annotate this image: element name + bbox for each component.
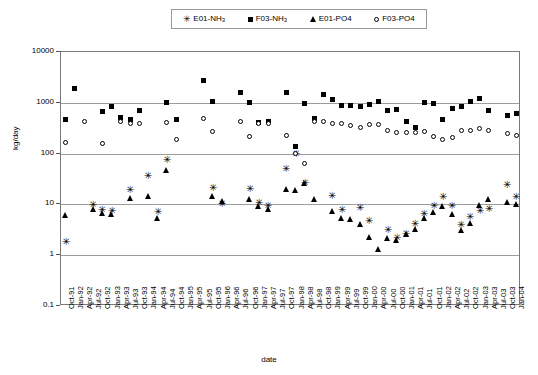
data-point-f03-po4 xyxy=(201,116,206,121)
data-point-e01-po4 xyxy=(154,215,160,221)
x-tick-label: Jul-00 xyxy=(390,289,398,309)
data-point-f03-nh3 xyxy=(367,102,372,107)
data-point-e01-nh3: ✳ xyxy=(163,156,171,164)
legend-item-label: F03-NH3 xyxy=(256,15,287,23)
data-point-f03-po4 xyxy=(210,129,215,134)
y-tick-label: 10000 xyxy=(24,47,54,55)
x-tick-label: Oct-93 xyxy=(141,286,149,309)
data-point-e01-po4 xyxy=(127,195,133,201)
data-point-f03-po4 xyxy=(385,128,390,133)
y-tick-label: 10 xyxy=(24,199,54,207)
data-point-f03-po4 xyxy=(514,133,519,138)
data-point-e01-po4 xyxy=(513,201,519,207)
data-point-f03-po4 xyxy=(367,122,372,127)
y-gridline xyxy=(61,154,519,155)
x-tick-label: Oct-00 xyxy=(399,286,407,309)
data-point-e01-po4 xyxy=(163,167,169,173)
x-tick-label: Oct-96 xyxy=(252,286,260,309)
data-point-e01-nh3: ✳ xyxy=(144,172,152,180)
data-point-e01-po4 xyxy=(255,203,261,209)
x-tick-label: Apr-96 xyxy=(233,286,241,309)
y-gridline xyxy=(61,255,519,256)
data-point-f03-nh3 xyxy=(284,90,289,95)
x-tick-label: Jul-93 xyxy=(132,289,140,309)
x-tick-label: Oct-97 xyxy=(288,286,296,309)
data-point-e01-nh3: ✳ xyxy=(485,205,493,213)
x-tick-label: Oct-91 xyxy=(68,286,76,309)
data-point-f03-nh3 xyxy=(339,103,344,108)
x-tick-label: Apr-97 xyxy=(270,286,278,309)
chart-legend: ✳E01-NH3F03-NH3E01-PO4F03-PO4 xyxy=(171,9,427,29)
data-point-e01-po4 xyxy=(357,221,363,227)
x-tick-label: Apr-93 xyxy=(123,286,131,309)
legend-item-3[interactable]: E01-PO4 xyxy=(310,15,352,23)
data-point-e01-nh3: ✳ xyxy=(384,226,392,234)
x-tick-label: Jan-00 xyxy=(371,286,379,309)
y-tick-label: 1000 xyxy=(24,98,54,106)
x-tick-label: Jul-96 xyxy=(242,289,250,309)
y-tick-mark xyxy=(56,51,60,52)
x-tick-label: Apr-02 xyxy=(454,286,462,309)
data-point-f03-po4 xyxy=(128,121,133,126)
data-point-f03-po4 xyxy=(450,135,455,140)
data-point-e01-po4 xyxy=(458,227,464,233)
chart-figure: ✳E01-NH3F03-NH3E01-PO4F03-PO4 kg/day ✳✳✳… xyxy=(0,0,538,375)
x-tick-label: Apr-98 xyxy=(307,286,315,309)
data-point-f03-po4 xyxy=(422,129,427,134)
x-tick-label: Jul-02 xyxy=(463,289,471,309)
data-point-f03-nh3 xyxy=(431,101,436,106)
data-point-f03-po4 xyxy=(468,128,473,133)
y-tick-label: 1 xyxy=(24,250,54,258)
data-point-e01-po4 xyxy=(476,202,482,208)
data-point-e01-po4 xyxy=(338,215,344,221)
data-point-f03-po4 xyxy=(431,134,436,139)
data-point-e01-po4 xyxy=(246,196,252,202)
square-marker-icon xyxy=(248,17,253,22)
data-point-f03-nh3 xyxy=(247,100,252,105)
data-point-f03-po4 xyxy=(174,137,179,142)
data-point-f03-po4 xyxy=(459,128,464,133)
data-point-f03-nh3 xyxy=(164,100,169,105)
data-point-f03-nh3 xyxy=(385,108,390,113)
y-tick-mark xyxy=(56,203,60,204)
data-point-f03-nh3 xyxy=(100,109,105,114)
data-point-f03-nh3 xyxy=(459,104,464,109)
data-point-e01-po4 xyxy=(375,246,381,252)
x-tick-label: Apr-99 xyxy=(344,286,352,309)
x-tick-label: Apr-03 xyxy=(491,286,499,309)
data-point-f03-nh3 xyxy=(210,99,215,104)
legend-item-2[interactable]: F03-NH3 xyxy=(248,15,287,23)
x-tick-label: Oct-92 xyxy=(104,286,112,309)
data-point-f03-nh3 xyxy=(293,144,298,149)
x-tick-label: Apr-00 xyxy=(380,286,388,309)
data-point-f03-nh3 xyxy=(514,111,519,116)
x-tick-label: Jan-04 xyxy=(518,286,526,309)
x-tick-label: Jul-97 xyxy=(279,289,287,309)
data-point-f03-po4 xyxy=(100,141,105,146)
x-tick-label: Jan-95 xyxy=(187,286,195,309)
data-point-f03-po4 xyxy=(486,128,491,133)
data-point-e01-nh3: ✳ xyxy=(365,217,373,225)
y-tick-mark xyxy=(56,254,60,255)
x-tick-label: Jan-96 xyxy=(224,286,232,309)
data-point-e01-po4 xyxy=(430,209,436,215)
x-tick-label: Jan-03 xyxy=(482,286,490,309)
data-point-e01-po4 xyxy=(421,215,427,221)
legend-item-1[interactable]: ✳E01-NH3 xyxy=(183,15,225,23)
data-point-f03-nh3 xyxy=(450,106,455,111)
data-point-f03-nh3 xyxy=(394,107,399,112)
data-point-f03-po4 xyxy=(266,121,271,126)
x-tick-label: Apr-92 xyxy=(86,286,94,309)
data-point-f03-nh3 xyxy=(137,108,142,113)
data-point-f03-po4 xyxy=(118,119,123,124)
data-point-f03-nh3 xyxy=(422,100,427,105)
data-point-f03-po4 xyxy=(376,122,381,127)
data-point-f03-nh3 xyxy=(358,104,363,109)
data-point-f03-po4 xyxy=(164,120,169,125)
legend-item-label: E01-NH3 xyxy=(193,15,225,23)
legend-item-4[interactable]: F03-PO4 xyxy=(374,15,414,23)
x-tick-label: Oct-94 xyxy=(178,286,186,309)
data-point-f03-nh3 xyxy=(174,117,179,122)
data-point-e01-nh3: ✳ xyxy=(328,192,336,200)
x-tick-label: Jul-92 xyxy=(95,289,103,309)
